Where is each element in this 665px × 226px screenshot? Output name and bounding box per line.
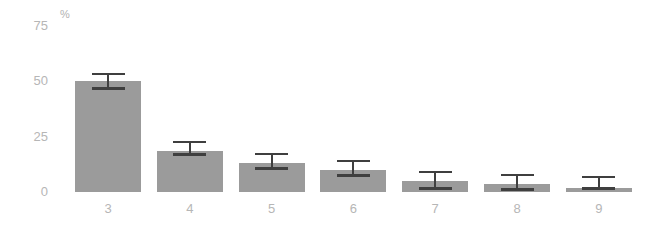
error-bar-top-cap (255, 153, 288, 155)
error-bar-line (352, 161, 354, 175)
x-tick-label: 7 (413, 202, 457, 216)
x-tick-label: 6 (331, 202, 375, 216)
x-tick-label: 3 (86, 202, 130, 216)
error-bar-line (107, 74, 109, 88)
error-bar-line (516, 175, 518, 188)
error-bar-bottom-cap (582, 187, 615, 190)
error-bar-bottom-cap (173, 153, 206, 156)
bar-chart: % 0255075 3456789 (0, 0, 665, 226)
error-bar-bottom-cap (92, 87, 125, 90)
error-bar-top-cap (582, 176, 615, 178)
error-bar-bottom-cap (255, 167, 288, 170)
error-bar-line (271, 154, 273, 167)
x-tick-label: 9 (577, 202, 621, 216)
error-bar-top-cap (92, 73, 125, 75)
x-tick-label: 5 (250, 202, 294, 216)
y-tick-label: 75 (14, 19, 48, 33)
x-tick-label: 4 (168, 202, 212, 216)
error-bar-top-cap (419, 171, 452, 173)
error-bar-top-cap (173, 141, 206, 143)
y-axis-unit-label: % (60, 8, 70, 20)
error-bar-bottom-cap (501, 188, 534, 191)
error-bar-bottom-cap (337, 174, 370, 177)
x-tick-label: 8 (495, 202, 539, 216)
error-bar-bottom-cap (419, 187, 452, 190)
y-tick-label: 25 (14, 130, 48, 144)
y-tick-label: 50 (14, 74, 48, 88)
y-tick-label: 0 (14, 185, 48, 199)
error-bar-top-cap (501, 174, 534, 176)
error-bar-top-cap (337, 160, 370, 162)
bar (75, 81, 141, 192)
bar (157, 151, 223, 192)
error-bar-line (434, 172, 436, 187)
